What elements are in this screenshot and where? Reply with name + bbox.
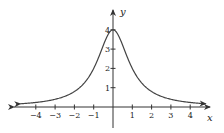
x-tick-label: −3 bbox=[49, 111, 61, 120]
x-tick-label: 1 bbox=[130, 111, 135, 120]
x-tick-label: 3 bbox=[168, 111, 173, 120]
x-tick-label: −2 bbox=[69, 111, 81, 120]
y-tick-label: 3 bbox=[105, 45, 110, 54]
ticks: −4−3−2−112341234 bbox=[30, 26, 193, 120]
x-tick-label: −1 bbox=[88, 111, 100, 120]
y-axis-label: y bbox=[119, 6, 126, 17]
x-tick-label: 4 bbox=[188, 111, 193, 120]
y-tick-label: 2 bbox=[105, 64, 110, 73]
axes bbox=[14, 10, 210, 128]
y-tick-label: 1 bbox=[105, 84, 110, 93]
x-tick-label: 2 bbox=[149, 111, 154, 120]
x-axis-label: x bbox=[207, 112, 213, 123]
x-tick-label: −4 bbox=[30, 111, 42, 120]
function-plot: −4−3−2−112341234 x y bbox=[0, 0, 224, 133]
